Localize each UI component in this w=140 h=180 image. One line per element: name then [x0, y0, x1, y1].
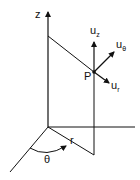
- u-theta-vector: [94, 52, 114, 72]
- u-z-label: uz: [90, 24, 100, 38]
- u-r-vector: [94, 72, 109, 83]
- point-p-label: P: [84, 70, 91, 82]
- radius-label: r: [70, 134, 74, 146]
- slant-line: [48, 36, 94, 72]
- u-r-label: ur: [111, 79, 120, 93]
- z-axis-label: z: [35, 8, 41, 20]
- point-p: [92, 70, 96, 74]
- cylindrical-coordinates-diagram: z uz uθ ur P θ r: [0, 0, 140, 180]
- theta-arc: [30, 146, 66, 153]
- u-theta-label: uθ: [116, 38, 126, 52]
- theta-label: θ: [44, 153, 50, 165]
- x-axis: [10, 127, 48, 172]
